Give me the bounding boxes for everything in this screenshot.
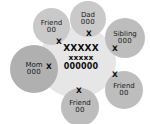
circle-zeros-friend-top-left: 00 xyxy=(47,27,57,34)
x-mark-dad: X xyxy=(86,29,92,38)
core-text-line-3: 000000 xyxy=(58,62,104,71)
circle-zeros-dad: 000 xyxy=(81,19,95,26)
diagram-canvas: Friend 00 X Dad 000 X Sibling 000 X Mom … xyxy=(0,0,150,124)
circle-zeros-friend-bottom: 00 xyxy=(75,107,85,114)
x-mark-friend-bottom: X xyxy=(76,86,82,95)
x-mark-friend-bottom-right: X xyxy=(112,70,118,79)
core-text-line-2: xxxxx xyxy=(58,54,104,63)
circle-zeros-sibling: 000 xyxy=(118,38,132,45)
core-cluster-text: XXXXX xxxxx 000000 xyxy=(58,43,104,72)
circle-friend-top-left[interactable]: Friend 00 xyxy=(33,8,70,45)
x-mark-sibling: X xyxy=(112,44,118,53)
circle-zeros-friend-bottom-right: 00 xyxy=(119,90,129,97)
x-mark-mom: X xyxy=(46,62,52,71)
circle-friend-bottom-right[interactable]: Friend 00 xyxy=(105,71,143,109)
circle-sibling[interactable]: Sibling 000 xyxy=(105,18,145,58)
circle-zeros-mom: 000 xyxy=(27,69,41,76)
